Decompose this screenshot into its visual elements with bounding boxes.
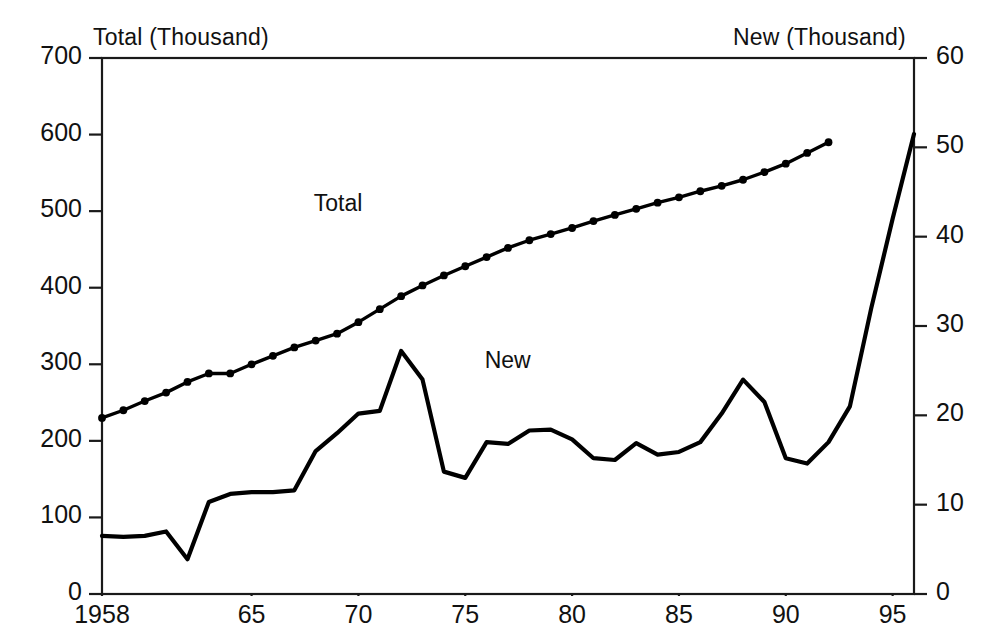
x-tick-label-85: 85 bbox=[619, 600, 739, 629]
series-marker-total bbox=[525, 236, 533, 244]
left-axis-ticks bbox=[89, 58, 102, 594]
x-tick-label-65: 65 bbox=[192, 600, 312, 629]
series-marker-total bbox=[761, 168, 769, 176]
left-tick-label-400: 400 bbox=[2, 271, 82, 300]
series-marker-total bbox=[419, 282, 427, 290]
right-tick-label-10: 10 bbox=[936, 488, 1004, 517]
series-marker-total bbox=[141, 397, 149, 405]
series-marker-total bbox=[696, 187, 704, 195]
series-marker-total bbox=[440, 272, 448, 280]
series-marker-total bbox=[355, 318, 363, 326]
left-tick-label-200: 200 bbox=[2, 424, 82, 453]
series-marker-total bbox=[504, 244, 512, 252]
series-marker-total bbox=[675, 193, 683, 201]
series-marker-total bbox=[739, 176, 747, 184]
series-marker-total bbox=[803, 149, 811, 157]
right-tick-label-60: 60 bbox=[936, 41, 1004, 70]
series-marker-total bbox=[226, 370, 234, 378]
series-marker-total bbox=[98, 414, 106, 422]
right-axis-ticks bbox=[914, 58, 927, 594]
series-marker-total bbox=[782, 160, 790, 168]
plot-area bbox=[0, 0, 1004, 641]
series-marker-total bbox=[376, 305, 384, 313]
left-tick-label-700: 700 bbox=[2, 41, 82, 70]
series-marker-total bbox=[590, 217, 598, 225]
series-marker-total bbox=[825, 138, 833, 146]
right-tick-label-50: 50 bbox=[936, 130, 1004, 159]
series-marker-total bbox=[547, 230, 555, 238]
left-tick-label-100: 100 bbox=[2, 500, 82, 529]
series-marker-total bbox=[718, 182, 726, 190]
chart-container: Total (Thousand) New (Thousand) 01002003… bbox=[0, 0, 1004, 641]
x-tick-label-75: 75 bbox=[405, 600, 525, 629]
series-marker-total bbox=[269, 352, 277, 360]
series-marker-total bbox=[290, 344, 298, 352]
series-marker-total bbox=[312, 337, 320, 345]
series-marker-total bbox=[461, 262, 469, 270]
series-marker-total bbox=[654, 199, 662, 207]
right-tick-label-40: 40 bbox=[936, 220, 1004, 249]
x-tick-label-90: 90 bbox=[726, 600, 846, 629]
plot-frame bbox=[102, 58, 914, 594]
series-annotation-new: New bbox=[485, 347, 531, 374]
series-marker-total bbox=[205, 370, 213, 378]
series-marker-total bbox=[611, 211, 619, 219]
series-marker-total bbox=[248, 360, 256, 368]
x-tick-label-1958: 1958 bbox=[42, 600, 162, 629]
series-marker-total bbox=[119, 406, 127, 414]
series-marker-total bbox=[483, 253, 491, 261]
series-marker-total bbox=[184, 378, 192, 386]
left-tick-label-600: 600 bbox=[2, 118, 82, 147]
x-tick-label-80: 80 bbox=[512, 600, 632, 629]
right-tick-label-30: 30 bbox=[936, 309, 1004, 338]
left-tick-label-500: 500 bbox=[2, 194, 82, 223]
series-marker-total bbox=[397, 292, 405, 300]
series-annotation-total: Total bbox=[314, 190, 363, 217]
x-tick-label-70: 70 bbox=[298, 600, 418, 629]
series-marker-total bbox=[333, 330, 341, 338]
left-tick-label-300: 300 bbox=[2, 347, 82, 376]
series-marker-total bbox=[568, 224, 576, 232]
series-marker-total bbox=[632, 205, 640, 213]
series-marker-total bbox=[162, 389, 170, 397]
x-tick-label-95: 95 bbox=[833, 600, 953, 629]
right-tick-label-20: 20 bbox=[936, 398, 1004, 427]
